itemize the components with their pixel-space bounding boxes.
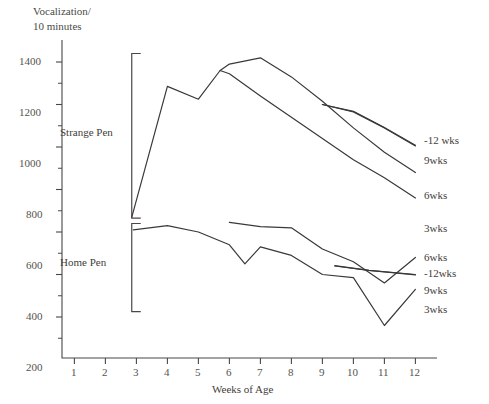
axes — [56, 40, 437, 364]
group-brackets — [132, 54, 141, 312]
plot-area — [0, 0, 489, 404]
vocalization-line-chart: Vocalization/ 10 minutes Strange Pen Hom… — [0, 0, 489, 404]
line-strange-6wks — [220, 58, 415, 173]
data-lines — [132, 58, 416, 326]
line-strange-12wks — [322, 105, 415, 146]
